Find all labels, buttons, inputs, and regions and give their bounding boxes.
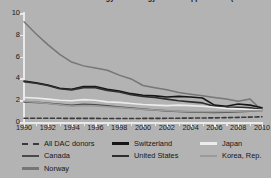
chart-legend: All DAC donorsCanadaNorway SwitzerlandUn… [22, 138, 268, 176]
legend-swatch [112, 142, 129, 144]
x-tick-mark [226, 123, 227, 126]
y-tick-mark [20, 57, 23, 59]
legend-item[interactable]: Switzerland [112, 138, 178, 149]
x-tick-mark [155, 123, 156, 126]
x-tick-mark [214, 123, 215, 127]
legend-label: Japan [222, 140, 242, 148]
legend-item[interactable]: Korea, Rep. [200, 151, 261, 162]
x-tick-mark [179, 123, 180, 126]
y-tick-mark [20, 78, 23, 80]
y-tick-mark [20, 35, 23, 37]
x-tick-mark [60, 123, 61, 126]
x-tick-mark [203, 123, 204, 126]
y-tick-mark [20, 13, 23, 15]
legend-swatch [200, 155, 217, 157]
legend-item[interactable]: Japan [200, 138, 261, 149]
legend-label: Switzerland [134, 140, 172, 148]
legend-label: Korea, Rep. [222, 152, 261, 160]
y-tick-mark [20, 100, 23, 102]
legend-column-2: SwitzerlandUnited States [112, 138, 178, 163]
legend-label: Canada [44, 152, 70, 160]
x-tick-mark [262, 123, 263, 127]
legend-swatch [22, 167, 39, 169]
legend-label: Norway [44, 165, 69, 173]
legend-item[interactable]: All DAC donors [22, 138, 95, 149]
legend-column-1: All DAC donorsCanadaNorway [22, 138, 95, 176]
legend-item[interactable]: United States [112, 151, 178, 162]
x-tick-mark [48, 123, 49, 127]
legend-swatch [200, 142, 217, 144]
x-tick-mark [72, 123, 73, 127]
y-tick-mark [20, 122, 23, 124]
x-tick-mark [167, 123, 168, 127]
x-tick-mark [250, 123, 251, 126]
x-tick-mark [24, 123, 25, 127]
x-tick-mark [119, 123, 120, 127]
legend-item[interactable]: Canada [22, 151, 95, 162]
legend-swatch [112, 155, 129, 157]
series-line-all-dac-donors [24, 117, 262, 119]
series-line-norway [24, 22, 262, 111]
x-tick-mark [107, 123, 108, 126]
x-tick-mark [131, 123, 132, 126]
legend-swatch [22, 155, 39, 157]
legend-item[interactable]: Norway [22, 163, 95, 174]
x-tick-mark [191, 123, 192, 127]
legend-swatch [22, 143, 39, 145]
legend-column-3: JapanKorea, Rep. [200, 138, 261, 163]
chart-figure: Patents in Renewable Energy Technology R… [0, 0, 271, 178]
x-tick-mark [95, 123, 96, 127]
x-tick-mark [143, 123, 144, 127]
x-tick-mark [84, 123, 85, 126]
x-tick-mark [238, 123, 239, 127]
x-tick-mark [36, 123, 37, 126]
legend-label: All DAC donors [44, 140, 95, 148]
legend-label: United States [134, 152, 178, 160]
